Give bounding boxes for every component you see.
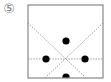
dot-left bbox=[42, 55, 49, 62]
diagram-figure bbox=[0, 0, 111, 82]
diagram-lines bbox=[28, 23, 103, 78]
dot-bottom bbox=[62, 73, 69, 80]
dot-right bbox=[81, 55, 88, 62]
dot-top bbox=[62, 37, 69, 44]
diagonal-left-to-right bbox=[28, 23, 86, 78]
diagonal-right-to-left bbox=[45, 23, 103, 78]
